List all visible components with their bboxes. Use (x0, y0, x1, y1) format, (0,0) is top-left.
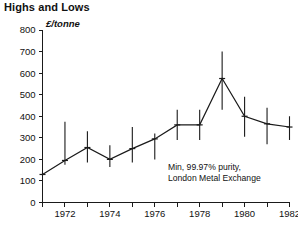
y-tick-label: 800 (20, 24, 36, 35)
y-tick-label: 200 (20, 154, 36, 165)
highs-and-lows-plot: 0100200300400500600700800 19721974197619… (0, 0, 298, 240)
x-tick-label: 1974 (99, 208, 120, 219)
x-tick-label: 1982 (279, 208, 298, 219)
price-trend-line (43, 79, 290, 175)
annotation-line-2: London Metal Exchange (168, 173, 261, 184)
annotation-line-1: Min, 99.97% purity, (168, 162, 261, 173)
y-tick-label: 300 (20, 132, 36, 143)
x-tick-label: 1980 (234, 208, 255, 219)
y-tick-label: 100 (20, 175, 36, 186)
x-axis-tick-labels: 197219741976197819801982 (54, 208, 298, 219)
y-axis-tick-labels: 0100200300400500600700800 (20, 24, 36, 208)
x-axis-tick-marks (43, 203, 290, 207)
y-tick-label: 400 (20, 111, 36, 122)
x-tick-label: 1976 (144, 208, 165, 219)
y-tick-label: 500 (20, 89, 36, 100)
data-point-markers (40, 79, 293, 175)
chart-container: Highs and Lows £/tonne 01002003004005006… (0, 0, 298, 240)
x-tick-label: 1972 (54, 208, 75, 219)
y-tick-label: 600 (20, 68, 36, 79)
y-tick-label: 0 (30, 197, 35, 208)
y-tick-label: 700 (20, 46, 36, 57)
range-bar-group (43, 52, 290, 177)
chart-annotation: Min, 99.97% purity, London Metal Exchang… (168, 162, 261, 185)
x-tick-label: 1978 (189, 208, 210, 219)
